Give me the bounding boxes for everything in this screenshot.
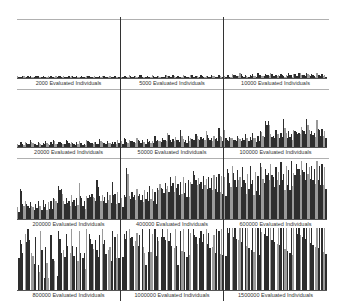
- panel-5000: [121, 20, 223, 78]
- bar-series: [121, 228, 223, 290]
- panel-100000: [224, 90, 327, 147]
- panel-baseline: [224, 147, 327, 148]
- panel-label: 200000 Evaluated Individuals: [17, 221, 120, 228]
- panel-baseline: [121, 147, 223, 148]
- bar-series: [17, 90, 120, 147]
- bar-series: [17, 20, 120, 78]
- panel-800000: [17, 228, 120, 290]
- panel-label: 1000000 Evaluated Individuals: [121, 292, 223, 299]
- bar: [222, 194, 223, 219]
- panel-1000000: [121, 228, 223, 290]
- bar-series: [224, 20, 327, 78]
- panel-2000: [17, 20, 120, 78]
- panel-baseline: [121, 219, 223, 220]
- bar: [222, 255, 223, 290]
- panel-label: 20000 Evaluated Individuals: [17, 149, 120, 156]
- panel-label: 400000 Evaluated Individuals: [121, 221, 223, 228]
- panel-label: 800000 Evaluated Individuals: [17, 292, 120, 299]
- bar-series: [224, 90, 327, 147]
- panel-label: 2000 Evaluated Individuals: [17, 80, 120, 87]
- bar-series: [121, 20, 223, 78]
- bar-series: [121, 90, 223, 147]
- bar: [118, 203, 119, 219]
- panel-400000: [121, 159, 223, 219]
- bar: [118, 258, 119, 290]
- bar: [325, 254, 326, 290]
- panel-baseline: [224, 219, 327, 220]
- panel-10000: [224, 20, 327, 78]
- panel-baseline: [121, 78, 223, 79]
- panel-label: 100000 Evaluated Individuals: [224, 149, 327, 156]
- panel-baseline: [121, 290, 223, 291]
- panel-label: 1500000 Evaluated Individuals: [224, 292, 327, 299]
- bar: [325, 138, 326, 147]
- panel-label: 10000 Evaluated Individuals: [224, 80, 327, 87]
- panel-baseline: [17, 219, 120, 220]
- figure: 2000 Evaluated Individuals5000 Evaluated…: [0, 0, 346, 307]
- panel-label: 600000 Evaluated Individuals: [224, 221, 327, 228]
- bar: [325, 189, 326, 219]
- panel-1500000: [224, 228, 327, 290]
- bar-series: [17, 228, 120, 290]
- panel-baseline: [224, 78, 327, 79]
- bar-series: [121, 159, 223, 219]
- panel-label: 5000 Evaluated Individuals: [121, 80, 223, 87]
- panel-50000: [121, 90, 223, 147]
- bar-series: [17, 159, 120, 219]
- panel-baseline: [17, 78, 120, 79]
- panel-baseline: [224, 290, 327, 291]
- bar-series: [224, 228, 327, 290]
- panel-baseline: [17, 290, 120, 291]
- panel-20000: [17, 90, 120, 147]
- panel-600000: [224, 159, 327, 219]
- panel-label: 50000 Evaluated Individuals: [121, 149, 223, 156]
- panel-200000: [17, 159, 120, 219]
- bar-series: [224, 159, 327, 219]
- panel-baseline: [17, 147, 120, 148]
